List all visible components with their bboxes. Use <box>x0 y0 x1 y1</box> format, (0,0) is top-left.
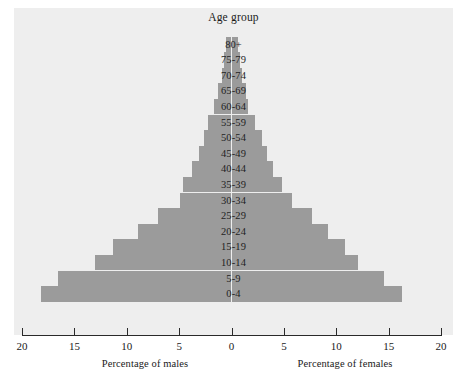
bar-male <box>180 193 231 209</box>
bar-female <box>232 208 313 224</box>
bar-male <box>218 83 232 99</box>
bar-row: 30-34 <box>0 193 467 209</box>
x-axis-tick-label: 15 <box>54 340 94 352</box>
x-axis-label-females: Percentage of females <box>255 358 435 369</box>
bar-row: 35-39 <box>0 177 467 193</box>
bar-female <box>232 146 268 162</box>
bars-container: 80+75-7970-7465-6960-6455-5950-5445-4940… <box>0 0 467 386</box>
x-axis-tick <box>284 328 285 336</box>
bar-male <box>208 115 231 131</box>
bar-male <box>224 52 231 68</box>
x-axis-tick-label: 15 <box>369 340 409 352</box>
bar-female <box>232 271 385 287</box>
x-axis-tick <box>389 328 390 336</box>
bar-row: 40-44 <box>0 161 467 177</box>
bar-female <box>232 37 238 53</box>
x-axis-tick-label: 5 <box>159 340 199 352</box>
x-axis-tick-label: 5 <box>264 340 304 352</box>
bar-row: 5-9 <box>0 271 467 287</box>
bar-female <box>232 99 249 115</box>
bar-female <box>232 52 240 68</box>
bar-row: 70-74 <box>0 68 467 84</box>
bar-female <box>232 130 262 146</box>
bar-row: 65-69 <box>0 83 467 99</box>
bar-female <box>232 224 328 240</box>
x-axis-tick <box>179 328 180 336</box>
bar-row: 60-64 <box>0 99 467 115</box>
bar-male <box>95 255 231 271</box>
x-axis-tick-label: 20 <box>2 340 42 352</box>
x-axis-label-males: Percentage of males <box>55 358 235 369</box>
x-axis-tick-label: 10 <box>107 340 147 352</box>
x-axis-tick-label: 20 <box>421 340 461 352</box>
bar-male <box>204 130 231 146</box>
bar-female <box>232 239 345 255</box>
bar-row: 25-29 <box>0 208 467 224</box>
bar-female <box>232 255 359 271</box>
bar-row: 45-49 <box>0 146 467 162</box>
bar-female <box>232 286 403 302</box>
bar-row: 0-4 <box>0 286 467 302</box>
bar-female <box>232 193 293 209</box>
bar-row: 20-24 <box>0 224 467 240</box>
bar-male <box>158 208 231 224</box>
bar-female <box>232 161 274 177</box>
bar-male <box>183 177 231 193</box>
x-axis-tick <box>127 328 128 336</box>
bar-male <box>192 161 232 177</box>
x-axis-tick-label: 10 <box>316 340 356 352</box>
bar-row: 15-19 <box>0 239 467 255</box>
bar-male <box>138 224 231 240</box>
bar-male <box>41 286 232 302</box>
bar-female <box>232 83 247 99</box>
bar-female <box>232 68 242 84</box>
x-axis-tick <box>441 328 442 336</box>
population-pyramid-figure: Age group 80+75-7970-7465-6960-6455-5950… <box>0 0 467 386</box>
bar-male <box>214 99 232 115</box>
bar-male <box>113 239 231 255</box>
x-axis-tick <box>22 328 23 336</box>
bar-row: 10-14 <box>0 255 467 271</box>
x-axis-tick <box>336 328 337 336</box>
bar-row: 55-59 <box>0 115 467 131</box>
x-axis-tick <box>74 328 75 336</box>
bar-row: 50-54 <box>0 130 467 146</box>
x-axis-tick <box>232 328 233 336</box>
bar-female <box>232 177 282 193</box>
bar-female <box>232 115 255 131</box>
bar-row: 75-79 <box>0 52 467 68</box>
bar-male <box>222 68 231 84</box>
x-axis-tick-label: 0 <box>212 340 252 352</box>
bar-male <box>199 146 231 162</box>
bar-row: 80+ <box>0 37 467 53</box>
bar-male <box>58 271 232 287</box>
